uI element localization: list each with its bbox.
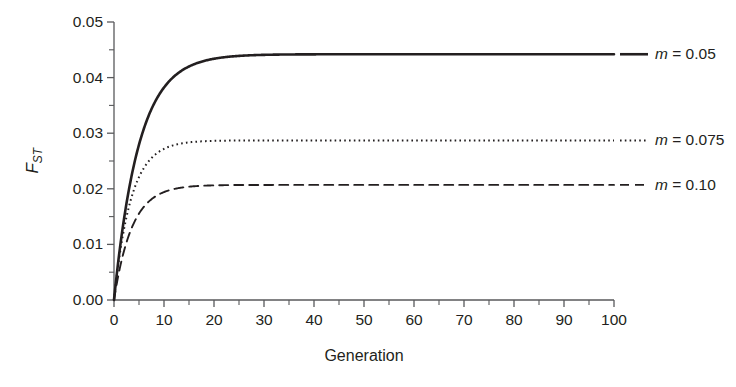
series-line-0 [114,54,614,300]
series-label-value: = 0.05 [668,45,716,62]
y-tick-label: 0.01 [43,236,103,252]
x-axis-label: Generation [264,347,464,365]
y-axis-label-base: F [23,163,42,173]
x-tick-label: 90 [544,312,584,328]
x-tick-label: 70 [444,312,484,328]
x-tick-label: 10 [144,312,184,328]
x-tick-label: 0 [94,312,134,328]
legend-swatch-group [620,54,648,185]
data-series-group [114,54,614,300]
series-line-2 [114,185,614,300]
series-label-0: m = 0.05 [655,46,716,62]
series-line-1 [114,140,614,300]
y-tick-label: 0.03 [43,125,103,141]
x-tick-label: 100 [594,312,634,328]
series-label-2: m = 0.10 [655,177,716,193]
x-tick-label: 50 [344,312,384,328]
y-tick-label: 0.00 [43,292,103,308]
series-label-variable: m [655,45,668,62]
y-axis-label-subscript: ST [31,148,45,163]
y-tick-label: 0.02 [43,181,103,197]
series-label-variable: m [655,176,668,193]
series-label-1: m = 0.075 [655,132,724,148]
plot-area [0,0,736,387]
x-tick-label: 20 [194,312,234,328]
series-label-variable: m [655,131,668,148]
x-axis-ticks [114,300,614,307]
x-tick-label: 60 [394,312,434,328]
x-tick-label: 80 [494,312,534,328]
series-label-value: = 0.10 [668,176,716,193]
x-tick-label: 30 [244,312,284,328]
x-tick-label: 40 [294,312,334,328]
chart-figure: 0.000.010.020.030.040.05 010203040506070… [0,0,736,387]
y-tick-label: 0.05 [43,14,103,30]
series-label-value: = 0.075 [668,131,724,148]
y-axis-label: FST [23,121,44,201]
y-tick-label: 0.04 [43,70,103,86]
y-axis-ticks [107,22,114,300]
